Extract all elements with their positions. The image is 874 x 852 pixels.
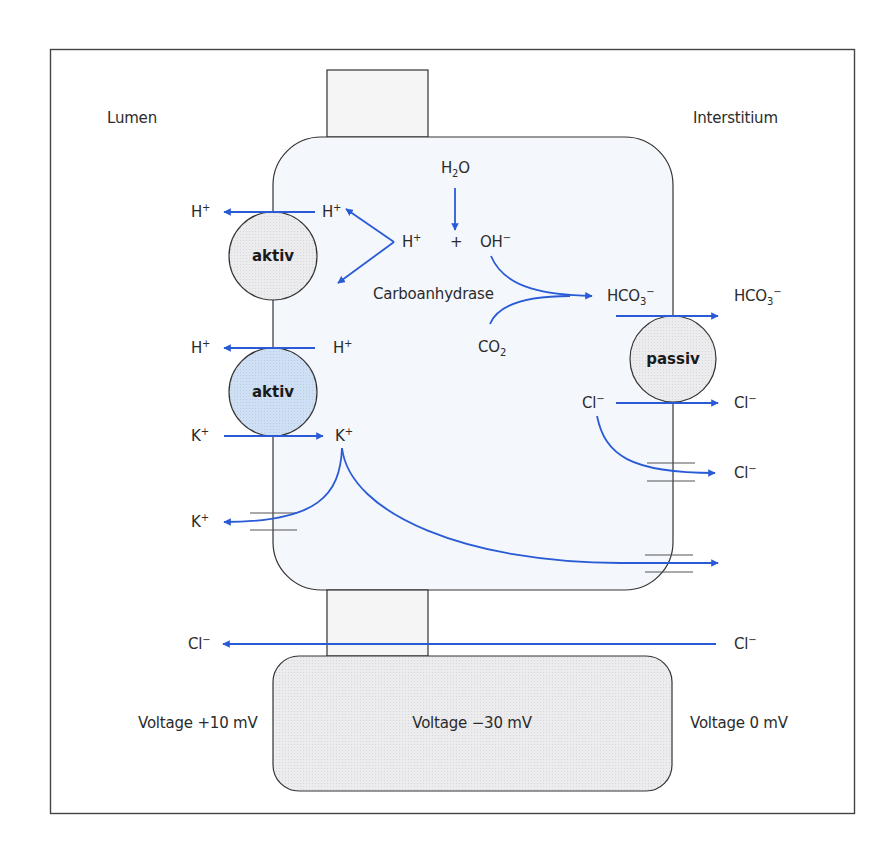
passive-carrier-label: passiv [646,350,700,368]
k-cell-label: K+ [335,429,353,444]
k-lumen-in-label: K+ [191,429,209,444]
voltage-cell-label: Voltage −30 mV [412,716,532,731]
h-cell-2-label: H+ [333,341,352,356]
hydroxide-label: OH− [480,235,511,250]
lumen-label: Lumen [107,111,157,126]
co2-label: CO2 [478,340,506,355]
h-lumen-1-label: H+ [191,205,210,220]
bicarbonate-cell-label: HCO3− [607,289,654,304]
hco3-interstitium-label: HCO3− [734,289,781,304]
water-label: H2O [441,161,470,176]
tight-junction-bottom [327,590,428,656]
active-pump-2-label: aktiv [252,383,294,401]
plus-sign: + [450,235,462,250]
h-cell-1-label: H+ [322,205,341,220]
cl-paracellular-left-label: Cl− [188,637,210,652]
carbonic-anhydrase-label: Carboanhydrase [373,287,494,302]
k-lumen-out-label: K+ [191,515,209,530]
proton-label: H+ [402,235,421,250]
active-pump-1-label: aktiv [252,247,294,265]
interstitium-label: Interstitium [693,111,778,126]
cl-cell-label: Cl− [582,396,604,411]
tight-junction-top [327,70,428,137]
cl-paracellular-right-label: Cl− [734,637,756,652]
cl-interstitium-1-label: Cl− [734,396,756,411]
h-lumen-2-label: H+ [191,341,210,356]
voltage-lumen-label: Voltage +10 mV [138,716,258,731]
cl-interstitium-2-label: Cl− [734,466,756,481]
voltage-interstitium-label: Voltage 0 mV [690,716,788,731]
